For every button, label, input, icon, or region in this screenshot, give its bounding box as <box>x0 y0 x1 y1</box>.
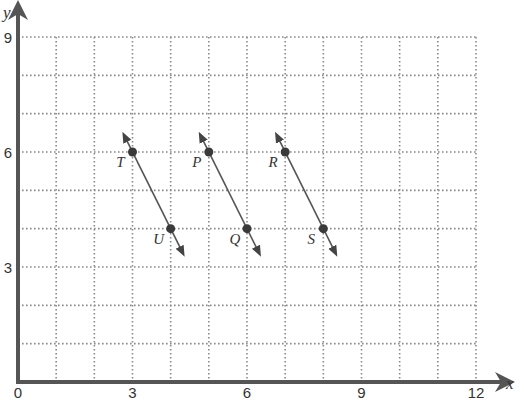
y-tick-label: 6 <box>4 144 12 161</box>
points: TUPQRS <box>116 148 328 247</box>
point-Q <box>243 224 252 233</box>
x-tick-label: 3 <box>128 384 136 401</box>
coordinate-plane: 036912369 TUPQRS x y <box>0 0 524 401</box>
point-U <box>166 224 175 233</box>
y-tick-label: 9 <box>4 29 12 46</box>
x-tick-label: 12 <box>468 384 485 401</box>
y-tick-label: 3 <box>4 259 12 276</box>
x-tick-label: 9 <box>357 384 365 401</box>
point-label-P: P <box>191 154 201 170</box>
tick-labels: 036912369 <box>4 29 485 401</box>
axes <box>18 10 505 384</box>
x-tick-label: 6 <box>243 384 251 401</box>
point-R <box>281 148 290 157</box>
point-label-S: S <box>308 231 316 247</box>
point-S <box>319 224 328 233</box>
point-T <box>128 148 137 157</box>
x-tick-label: 0 <box>14 384 22 401</box>
x-axis-label: x <box>505 374 514 393</box>
point-label-R: R <box>268 154 278 170</box>
point-label-T: T <box>116 154 126 170</box>
grid <box>18 37 476 382</box>
point-label-Q: Q <box>230 231 241 247</box>
point-label-U: U <box>153 231 165 247</box>
point-P <box>204 148 213 157</box>
y-axis-label: y <box>1 3 11 22</box>
